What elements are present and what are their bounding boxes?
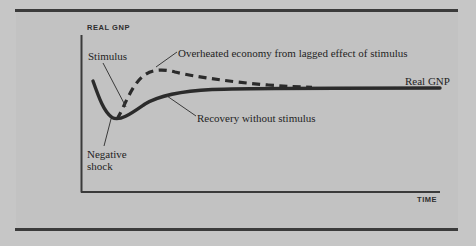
annotation-negative-shock: Negative shock [87,148,127,173]
annotation-overheated-economy: Overheated economy from lagged effect of… [178,47,408,59]
annotation-negative-shock-line1: Negative [87,148,127,160]
leader-line-overheated [156,52,177,67]
annotation-recovery-without-stimulus: Recovery without stimulus [197,112,316,124]
leader-line-stimulus [103,63,126,107]
figure-canvas: REAL GNP TIME Stimulus Overheated econom… [0,0,476,246]
annotation-stimulus: Stimulus [88,50,127,62]
annotation-real-gnp-trend: Real GNP [405,75,450,87]
annotation-negative-shock-line2: shock [87,160,127,172]
leader-line-negative-shock [104,119,111,146]
y-axis-label: REAL GNP [87,24,130,32]
x-axis-label: TIME [417,196,437,204]
leader-line-recovery [167,96,196,116]
